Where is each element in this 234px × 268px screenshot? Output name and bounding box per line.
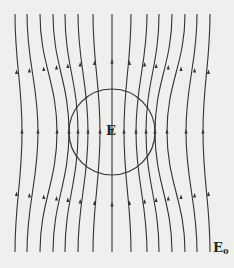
arrow-up-icon [155, 198, 158, 203]
arrow-up-icon [76, 129, 79, 134]
field-line [146, 14, 159, 252]
field-line [65, 14, 78, 252]
field-line [40, 14, 57, 252]
arrow-up-icon [134, 129, 137, 134]
arrow-up-icon [55, 196, 58, 201]
field-line [78, 14, 88, 252]
field-line [155, 14, 172, 252]
arrow-up-icon [184, 129, 187, 134]
field-line [167, 14, 185, 252]
inside-field-label: E [106, 123, 116, 138]
arrow-up-icon [55, 65, 58, 70]
arrow-up-icon [207, 192, 210, 197]
field-line [186, 14, 197, 252]
arrow-up-icon [98, 129, 101, 134]
arrow-up-icon [144, 129, 147, 134]
arrow-up-icon [110, 202, 113, 207]
arrow-up-icon [122, 129, 125, 134]
arrow-up-icon [193, 68, 196, 73]
arrow-up-icon [42, 67, 45, 72]
field-line [53, 14, 69, 252]
arrow-up-icon [36, 129, 39, 134]
field-lines-canvas [0, 0, 234, 268]
arrow-up-icon [86, 129, 89, 134]
arrow-up-icon [165, 129, 168, 134]
arrow-up-icon [143, 199, 146, 204]
arrow-up-icon [66, 198, 69, 203]
arrow-up-icon [28, 193, 31, 198]
arrow-up-icon [207, 70, 210, 75]
arrow-up-icon [20, 129, 23, 134]
arrow-up-icon [15, 70, 18, 75]
field-diagram: E E0 [0, 0, 234, 268]
arrow-up-icon [167, 196, 170, 201]
arrow-up-icon [110, 59, 113, 64]
arrow-up-icon [15, 192, 18, 197]
arrow-up-icon [179, 67, 182, 72]
arrow-up-icon [167, 65, 170, 70]
arrow-up-icon [42, 195, 45, 200]
external-field-label: E0 [213, 240, 229, 256]
arrow-up-icon [28, 68, 31, 73]
arrow-up-icon [66, 64, 69, 69]
field-line [27, 14, 38, 252]
arrow-up-icon [55, 129, 58, 134]
arrow-up-icon [155, 64, 158, 69]
arrow-up-icon [193, 193, 196, 198]
arrow-up-icon [179, 195, 182, 200]
arrow-up-icon [201, 129, 204, 134]
